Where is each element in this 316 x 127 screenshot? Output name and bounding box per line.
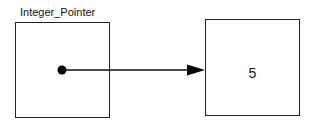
arrowhead-icon xyxy=(187,65,205,76)
pointer-arrow xyxy=(0,0,316,127)
